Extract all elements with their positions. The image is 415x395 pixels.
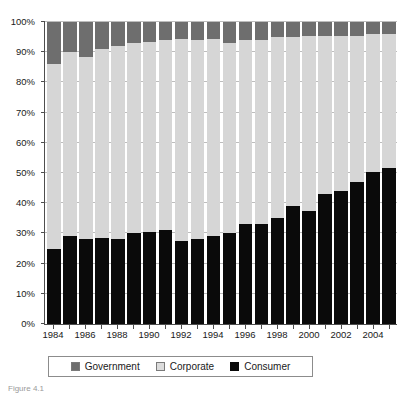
y-axis-tick-label: 0%	[21, 319, 35, 329]
bar-column	[317, 22, 333, 324]
bar-column	[190, 22, 206, 324]
square-swatch-icon	[71, 362, 80, 371]
bar-column	[381, 22, 397, 324]
bar-segment-government	[63, 22, 77, 52]
bar-column	[285, 22, 301, 324]
y-axis-tick-label: 30%	[16, 229, 35, 239]
x-axis-tick	[261, 325, 262, 329]
x-axis-tick	[229, 325, 230, 329]
bar-segment-consumer	[143, 232, 157, 324]
bar-column	[110, 22, 126, 324]
x-axis-tick	[389, 325, 390, 329]
bar-segment-government	[47, 22, 61, 64]
bar-segment-corporate	[95, 49, 109, 238]
bar-segment-consumer	[223, 233, 237, 324]
bar-segment-corporate	[159, 40, 173, 230]
y-axis-tick: 0%	[41, 323, 45, 324]
x-axis-tick	[133, 325, 134, 329]
x-axis-tick	[165, 325, 166, 329]
bar-segment-consumer	[382, 168, 396, 324]
square-swatch-icon	[156, 362, 165, 371]
bar-segment-government	[302, 22, 316, 36]
y-axis-tick: 50%	[41, 172, 45, 173]
bar-segment-corporate	[191, 40, 205, 239]
bar-column	[301, 22, 317, 324]
x-axis-labels: 1984198619881990199219941996199820002002…	[45, 330, 397, 344]
legend-item-government: Government	[71, 362, 140, 372]
bar-column	[62, 22, 78, 324]
bar-segment-corporate	[366, 34, 380, 171]
y-axis-tick-label: 80%	[16, 78, 35, 88]
bar-segment-government	[191, 22, 205, 40]
bar-segment-consumer	[175, 241, 189, 324]
bar-segment-government	[255, 22, 269, 40]
bar-segment-government	[334, 22, 348, 36]
x-axis-tick-label: 1992	[170, 330, 191, 340]
y-axis-tick-label: 100%	[11, 17, 35, 27]
bar-segment-corporate	[127, 43, 141, 233]
bar-segment-corporate	[334, 36, 348, 192]
bar-segment-consumer	[111, 239, 125, 324]
bar-column	[94, 22, 110, 324]
bars-group	[46, 22, 397, 324]
y-axis-tick-label: 10%	[16, 289, 35, 299]
bar-segment-consumer	[79, 239, 93, 324]
bar-segment-consumer	[366, 172, 380, 325]
bar-segment-corporate	[318, 36, 332, 195]
bar-segment-corporate	[382, 34, 396, 168]
bar-segment-government	[111, 22, 125, 46]
bar-column	[333, 22, 349, 324]
bar-segment-government	[239, 22, 253, 40]
bar-segment-government	[79, 22, 93, 57]
x-axis-tick	[69, 325, 70, 329]
x-axis-tick-label: 1996	[234, 330, 255, 340]
y-axis-tick: 90%	[41, 51, 45, 52]
y-axis-tick-label: 20%	[16, 259, 35, 269]
y-axis-tick: 30%	[41, 232, 45, 233]
bar-column	[237, 22, 253, 324]
y-axis-tick: 40%	[41, 202, 45, 203]
bar-segment-government	[95, 22, 109, 49]
bar-segment-consumer	[207, 236, 221, 324]
bar-column	[253, 22, 269, 324]
bar-segment-consumer	[271, 218, 285, 324]
bar-column	[78, 22, 94, 324]
bar-segment-government	[286, 22, 300, 37]
x-axis-tick	[101, 325, 102, 329]
bar-segment-government	[143, 22, 157, 42]
bar-column	[142, 22, 158, 324]
bar-segment-corporate	[47, 64, 61, 248]
bar-column	[174, 22, 190, 324]
bar-segment-consumer	[239, 224, 253, 324]
x-axis-tick-label: 1986	[74, 330, 95, 340]
legend-item-label: Government	[85, 362, 140, 372]
bar-segment-corporate	[302, 36, 316, 211]
y-axis-tick: 20%	[41, 263, 45, 264]
bar-segment-consumer	[302, 211, 316, 324]
bar-segment-government	[318, 22, 332, 36]
bar-segment-consumer	[350, 182, 364, 324]
x-axis-tick-label: 2002	[330, 330, 351, 340]
y-axis-tick-label: 70%	[16, 108, 35, 118]
bar-segment-corporate	[286, 37, 300, 206]
figure-caption: Figure 4.1	[8, 385, 44, 394]
bar-segment-consumer	[95, 238, 109, 324]
bar-segment-consumer	[255, 224, 269, 324]
x-axis-tick-label: 1998	[266, 330, 287, 340]
figure-container: 0%10%20%30%40%50%60%70%80%90%100% 198419…	[0, 0, 415, 395]
x-axis-tick	[325, 325, 326, 329]
bar-segment-corporate	[111, 46, 125, 239]
x-axis-tick-label: 1984	[42, 330, 63, 340]
chart-plot-area: 0%10%20%30%40%50%60%70%80%90%100%	[44, 22, 397, 325]
legend-item-label: Corporate	[170, 362, 214, 372]
chart-legend: GovernmentCorporateConsumer	[48, 356, 313, 377]
y-axis-tick-label: 60%	[16, 138, 35, 148]
x-axis-tick-label: 1994	[202, 330, 223, 340]
bar-column	[158, 22, 174, 324]
x-axis-tick	[357, 325, 358, 329]
y-axis-tick: 100%	[41, 21, 45, 22]
x-axis-tick-label: 2000	[298, 330, 319, 340]
bar-column	[269, 22, 285, 324]
bar-segment-consumer	[318, 194, 332, 324]
y-axis-tick-label: 50%	[16, 168, 35, 178]
